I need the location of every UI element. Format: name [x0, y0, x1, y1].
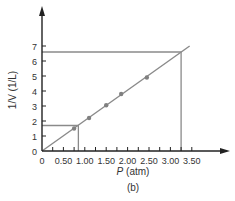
data-point [119, 92, 123, 96]
x-tick-label: 1.00 [76, 156, 94, 166]
y-tick-label: 7 [32, 42, 37, 52]
y-axis-arrow-icon [39, 6, 45, 16]
y-tick-label: 4 [32, 87, 37, 97]
y-tick-label: 3 [32, 102, 37, 112]
x-tick-label: 1.50 [97, 156, 115, 166]
x-tick-label: 3.00 [162, 156, 180, 166]
fit-line [42, 46, 190, 151]
x-tick-label: 0 [39, 156, 44, 166]
figure-caption: (b) [127, 182, 139, 193]
x-axis-ticks: 00.501.001.502.002.503.003.50 [39, 147, 200, 166]
y-tick-label: 2 [32, 117, 37, 127]
y-tick-label: 1 [32, 132, 37, 142]
y-axis-ticks: 01234567 [32, 42, 46, 157]
data-point [104, 103, 108, 107]
chart: 01234567 00.501.001.502.002.503.003.50 1… [0, 0, 235, 201]
x-axis-label-unit: (atm) [123, 166, 149, 177]
data-point [72, 126, 76, 130]
x-tick-label: 0.50 [55, 156, 73, 166]
data-point [145, 75, 149, 79]
x-tick-label: 2.50 [140, 156, 158, 166]
y-axis-label: 1/V (1/L) [7, 71, 18, 109]
y-tick-label: 0 [32, 147, 37, 157]
x-axis-label: P (atm) [117, 166, 150, 177]
x-tick-label: 2.00 [119, 156, 137, 166]
data-point [87, 116, 91, 120]
x-axis-arrow-icon [220, 148, 230, 154]
x-tick-label: 3.50 [183, 156, 201, 166]
y-tick-label: 5 [32, 72, 37, 82]
y-tick-label: 6 [32, 57, 37, 67]
plot-area [39, 6, 230, 154]
